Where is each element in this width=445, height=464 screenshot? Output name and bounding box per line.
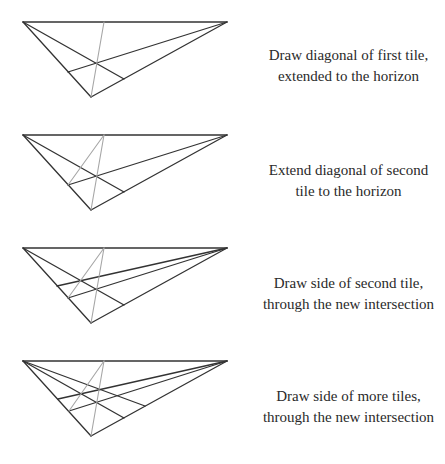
first-diagonal <box>91 135 104 210</box>
caption-line-2: tile to the horizon <box>252 181 445 202</box>
caption-line-1: Draw diagonal of first tile, <box>252 45 445 66</box>
left-edge <box>23 22 91 97</box>
tile-side-right <box>69 361 227 411</box>
left-edge <box>23 135 91 210</box>
caption-line-1: Draw side of more tiles, <box>252 386 445 407</box>
right-edge <box>91 361 227 436</box>
diagram-step-3 <box>23 248 227 323</box>
right-edge <box>91 22 227 97</box>
caption-line-2: through the new intersection <box>252 407 445 428</box>
diagram-step-2 <box>23 135 227 210</box>
second-tile-side <box>57 248 227 286</box>
caption-line-2: extended to the horizon <box>252 66 445 87</box>
caption-line-2: through the new intersection <box>252 294 445 315</box>
diagram-step-4 <box>23 361 227 436</box>
second-tile-side <box>58 361 227 399</box>
diagram-step-1 <box>23 22 227 97</box>
first-diagonal <box>91 22 104 97</box>
caption-step-4: Draw side of more tiles, through the new… <box>252 386 445 428</box>
tile-side-right <box>68 248 227 298</box>
first-diagonal <box>91 361 104 436</box>
caption-step-3: Draw side of second tile, through the ne… <box>252 273 445 315</box>
right-edge <box>91 248 227 323</box>
tile-side-right <box>68 135 227 185</box>
right-edge <box>91 135 227 210</box>
left-edge <box>23 361 91 436</box>
caption-line-1: Extend diagonal of second <box>252 160 445 181</box>
caption-step-2: Extend diagonal of second tile to the ho… <box>252 160 445 202</box>
tile-side-right <box>68 22 227 72</box>
first-diagonal <box>91 248 104 323</box>
caption-step-1: Draw diagonal of first tile, extended to… <box>252 45 445 87</box>
caption-line-1: Draw side of second tile, <box>252 273 445 294</box>
